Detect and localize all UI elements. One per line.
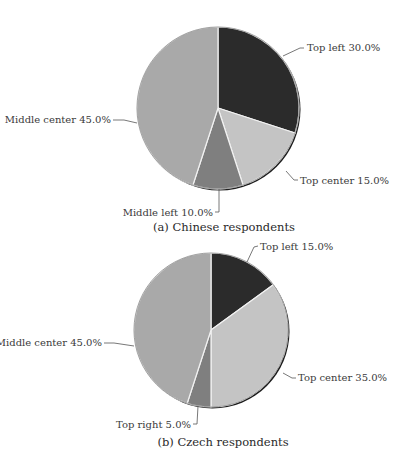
label-b-top-right: Top right 5.0% [116,419,191,430]
pie-chart-chinese [137,27,301,191]
label-a-middle-left: Middle left 10.0% [123,207,213,218]
pie-chart-czech [134,253,290,409]
caption-a: (a) Chinese respondents [153,220,295,234]
label-b-middle-center: Middle center 45.0% [0,337,102,348]
label-b-top-center: Top center 35.0% [298,372,387,383]
label-a-top-left: Top left 30.0% [307,42,380,53]
label-a-middle-center: Middle center 45.0% [5,114,111,125]
label-b-top-left: Top left 15.0% [260,241,333,252]
figure: Top left 30.0% Top center 15.0% Middle l… [0,0,396,471]
label-a-top-center: Top center 15.0% [300,175,389,186]
caption-b: (b) Czech respondents [157,435,288,449]
